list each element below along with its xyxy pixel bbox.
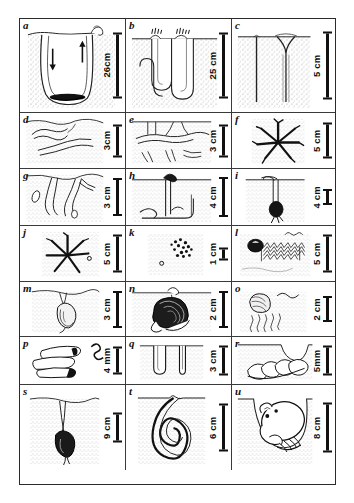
panel-q: q 3 cm (126, 337, 232, 385)
scale-label-a: 26cm (101, 53, 112, 78)
panel-label-a: a (23, 19, 29, 31)
panel-label-h: h (129, 169, 135, 181)
scale-bar-s: 9 cm (101, 385, 122, 470)
scale-bar-l: 5 cm (311, 226, 332, 281)
scale-bar-b: 25 cm (207, 19, 228, 112)
panel-label-q: q (129, 337, 135, 349)
scale-label-s: 9 cm (101, 416, 112, 438)
scale-bar-m: 3 cm (101, 282, 122, 336)
panel-label-j: j (23, 226, 26, 238)
scale-label-i: 4 cm (311, 186, 322, 208)
scale-label-k: 1 cm (207, 242, 218, 264)
scale-label-l: 5 cm (311, 242, 322, 264)
scale-bar-j: 5 cm (101, 226, 122, 281)
scale-bar-u: 8 cm (311, 385, 332, 470)
panel-s: s 9 cm (20, 385, 126, 470)
panel-e: e 3 cm (126, 113, 232, 169)
panel-label-d: d (23, 113, 29, 125)
scale-label-g: 3 cm (101, 186, 112, 208)
panel-label-s: s (23, 385, 27, 397)
scale-label-b: 25 cm (207, 52, 218, 80)
scale-label-t: 6 cm (207, 416, 218, 438)
scale-bar-h: 4 cm (207, 169, 228, 225)
panel-u: u 8 cm (232, 385, 335, 470)
panel-label-o: o (235, 282, 241, 294)
scale-bar-e: 3 cm (207, 113, 228, 168)
panel-p: p 4 mm (20, 337, 126, 385)
scale-label-d: 3cm (101, 131, 112, 151)
panel-m: m 3 cm (20, 282, 126, 337)
scale-label-c: 5 cm (311, 54, 322, 76)
panel-f: f 5 cm (232, 113, 335, 169)
panel-label-l: l (235, 226, 238, 238)
scale-bar-q: 3 cm (207, 337, 228, 384)
panel-label-r: r (235, 337, 239, 349)
scale-bar-n: 2 cm (207, 282, 228, 336)
panel-a: a (20, 19, 126, 113)
scale-label-j: 5 cm (101, 242, 112, 264)
scale-label-m: 3 cm (101, 298, 112, 320)
scale-label-f: 5 cm (311, 129, 322, 151)
scale-label-e: 3 cm (207, 129, 218, 151)
panel-g: g 3 cm (20, 169, 126, 226)
panel-k: k 1 cm (126, 226, 232, 282)
scale-bar-t: 6 cm (207, 385, 228, 470)
scale-bar-d: 3cm (101, 113, 122, 168)
scale-bar-o: 2 cm (311, 282, 332, 336)
scale-bar-a: 26cm (101, 19, 122, 112)
panel-label-t: t (129, 385, 132, 397)
panel-j: j 5 cm (20, 226, 126, 282)
panel-label-c: c (235, 19, 240, 31)
scale-bar-r: 5mm (311, 337, 332, 384)
scale-bar-f: 5 cm (311, 113, 332, 168)
scale-label-u: 8 cm (311, 416, 322, 438)
panel-label-f: f (235, 113, 239, 125)
panel-o: o 2 cm (232, 282, 335, 337)
scale-bar-p: 4 mm (101, 337, 122, 384)
panel-c: c 5 cm (232, 19, 335, 113)
scale-label-n: 2 cm (207, 298, 218, 320)
scale-label-o: 2 cm (311, 298, 322, 320)
scale-bar-g: 3 cm (101, 169, 122, 225)
scale-label-q: 3 cm (207, 349, 218, 371)
panel-n: n 2 cm (126, 282, 232, 337)
panel-t: t 6 cm (126, 385, 232, 470)
panel-label-u: u (235, 385, 241, 397)
panel-label-m: m (23, 282, 32, 294)
scale-bar-c: 5 cm (311, 19, 332, 112)
panel-i: i 4 cm (232, 169, 335, 226)
scale-label-p: 4 mm (101, 348, 112, 374)
panel-l: l 5 cm (232, 226, 335, 282)
panel-h: h 4 cm (126, 169, 232, 226)
figure-panel-grid: a (19, 18, 336, 485)
scale-label-r: 5mm (311, 349, 322, 372)
panel-label-p: p (23, 337, 29, 349)
panel-label-g: g (23, 169, 29, 181)
panel-label-b: b (129, 19, 135, 31)
panel-label-e: e (129, 113, 134, 125)
panel-label-i: i (235, 169, 238, 181)
panel-label-n: n (129, 282, 135, 294)
scale-bar-k: 1 cm (207, 226, 228, 281)
panel-label-k: k (129, 226, 135, 238)
panel-b: b 25 cm (126, 19, 232, 113)
panel-r: r 5mm (232, 337, 335, 385)
panel-d: d 3cm (20, 113, 126, 169)
scale-bar-i: 4 cm (311, 169, 332, 225)
scale-label-h: 4 cm (207, 186, 218, 208)
